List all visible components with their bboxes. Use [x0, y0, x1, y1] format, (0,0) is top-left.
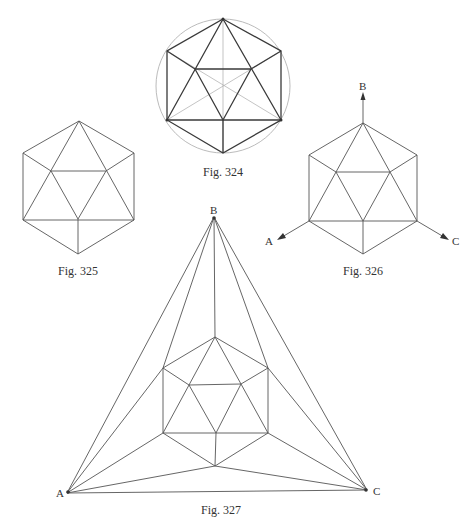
inner-triangle — [189, 384, 241, 433]
fig324-caption: Fig. 324 — [203, 165, 243, 180]
fig326-caption: Fig. 326 — [343, 264, 383, 279]
axis-a-label: A — [265, 235, 273, 247]
arrow-b-icon — [361, 92, 366, 100]
fig324-drawing — [156, 18, 290, 154]
axis-a — [282, 221, 309, 237]
arrow-a-icon — [277, 233, 286, 240]
outer-triangle — [67, 217, 367, 493]
axis-c — [417, 221, 444, 237]
axis-b-label: B — [359, 80, 366, 92]
vertex-a-label: A — [56, 487, 64, 499]
vertex-c-label: C — [373, 485, 380, 497]
fig325-drawing — [23, 121, 134, 254]
fig327-caption: Fig. 327 — [201, 503, 241, 518]
axis-c-label: C — [452, 235, 459, 247]
fig327-drawing: B A C — [56, 204, 380, 499]
fig325-caption: Fig. 325 — [58, 264, 98, 279]
vertex-b-label: B — [210, 204, 217, 216]
arrow-c-icon — [440, 233, 449, 240]
fig326-drawing: B A C — [265, 80, 459, 254]
outer-hexagon — [167, 19, 281, 153]
